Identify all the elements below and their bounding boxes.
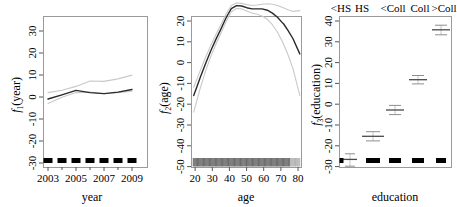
panel-education: <HS HS <Coll Coll >Coll f3(education)	[310, 0, 457, 207]
top-label-gtcoll: >Coll	[431, 2, 456, 14]
plot-frame-year	[44, 17, 148, 168]
y-tick-label: -10	[174, 76, 186, 91]
y-axis-title-rest: (age)	[157, 82, 171, 107]
y-tick-label: -20	[26, 133, 38, 148]
y-axis-title-year: f1(year)	[9, 77, 25, 113]
y-tick-label: 20	[26, 47, 38, 59]
upper-ci-curve-year	[48, 75, 132, 93]
estimate-group-lths	[343, 154, 357, 167]
x-tick-label: 80	[293, 172, 305, 184]
x-tick-label: 2003	[37, 172, 60, 184]
y-tick-label: -30	[174, 117, 186, 132]
x-tick-label: 30	[207, 172, 219, 184]
y-tick-label: -50	[174, 159, 186, 174]
y-tick-label: 0	[26, 94, 38, 100]
top-label-hs: HS	[355, 2, 369, 14]
estimate-group-hs	[362, 132, 384, 141]
x-axis-title-age: age	[238, 190, 255, 204]
y-tick-label: 30	[322, 36, 334, 48]
top-label-coll: Coll	[411, 2, 430, 14]
y-tick-label: -20	[174, 96, 186, 111]
y-axis-title-rest: (year)	[9, 77, 23, 106]
y-tick-label: 10	[322, 77, 334, 89]
y-axis-ticks-age: 20 10 0 -10 -20 -30 -40 -50	[174, 15, 191, 174]
top-label-ltcoll: <Coll	[380, 2, 405, 14]
svg-text:f1(year): f1(year)	[9, 77, 25, 113]
y-tick-label: 0	[322, 101, 334, 107]
y-axis-ticks-year: 30 20 10 0 -10 -20 -30	[26, 25, 43, 170]
svg-text:f3(education): f3(education)	[310, 64, 325, 126]
y-tick-label: -20	[322, 138, 334, 153]
x-tick-label: 2009	[121, 172, 144, 184]
estimate-group-coll	[409, 76, 427, 84]
y-tick-label: 30	[26, 25, 38, 37]
estimate-marks	[343, 25, 450, 166]
panel-age-svg: f2(age) 20 10 0 -10 -20 -30 -40 -50	[150, 0, 315, 207]
y-axis-ticks-education: 40 30 20 10 0 -10 -20 -30	[322, 15, 339, 174]
top-label-lths: <HS	[331, 2, 351, 14]
svg-text:f2(age): f2(age)	[157, 82, 173, 114]
figure-panels: f1(year) 30 20 10 0 -10 -20 -30	[0, 0, 457, 207]
x-tick-label: 2005	[65, 172, 88, 184]
x-tick-label: 70	[275, 172, 287, 184]
y-tick-label: -30	[322, 159, 334, 174]
y-tick-label: -30	[26, 155, 38, 170]
rug-marks-year	[44, 158, 137, 163]
plot-frame-age	[192, 17, 302, 168]
y-axis-title-education: f3(education)	[310, 64, 325, 126]
fit-curve-age	[194, 6, 300, 96]
y-tick-label: 10	[26, 69, 38, 81]
top-category-labels: <HS HS <Coll Coll >Coll	[331, 2, 457, 14]
estimate-group-gtcoll	[432, 25, 450, 35]
y-axis-title-rest: (education)	[310, 64, 323, 119]
panel-age: f2(age) 20 10 0 -10 -20 -30 -40 -50	[150, 0, 315, 207]
y-tick-label: -10	[26, 111, 38, 126]
y-tick-label: 20	[174, 15, 186, 27]
x-tick-label: 50	[241, 172, 253, 184]
y-tick-label: 40	[322, 15, 334, 27]
y-tick-label: 20	[322, 57, 334, 69]
panel-year-svg: f1(year) 30 20 10 0 -10 -20 -30	[0, 0, 160, 207]
rug-marks-age	[193, 158, 300, 167]
panel-education-svg: <HS HS <Coll Coll >Coll f3(education)	[310, 0, 457, 207]
x-axis-title-education: education	[372, 190, 419, 204]
x-tick-label: 20	[190, 172, 202, 184]
panel-year: f1(year) 30 20 10 0 -10 -20 -30	[0, 0, 160, 207]
plot-frame-education	[340, 17, 452, 168]
y-axis-title-age: f2(age)	[157, 82, 173, 114]
x-tick-label: 60	[258, 172, 270, 184]
y-tick-label: -10	[322, 117, 334, 132]
x-tick-label: 40	[224, 172, 236, 184]
x-tick-label: 2007	[93, 172, 116, 184]
y-tick-label: -40	[174, 138, 186, 153]
estimate-group-ltcoll	[386, 105, 404, 114]
y-tick-label: 0	[174, 59, 186, 65]
x-axis-title-year: year	[82, 190, 103, 204]
y-tick-label: 10	[174, 36, 186, 48]
